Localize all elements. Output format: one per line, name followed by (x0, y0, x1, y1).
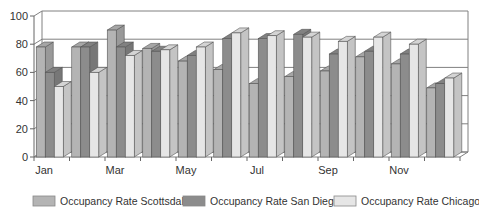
bar (445, 73, 462, 157)
legend-item: Occupancy Rate San Diego (183, 195, 340, 207)
bars (36, 25, 462, 157)
x-tick-label: May (176, 164, 197, 176)
bar (232, 28, 249, 157)
legend-swatch (334, 196, 356, 206)
bar (90, 67, 107, 157)
bar (54, 82, 71, 158)
y-axis: 020406080100 (10, 10, 34, 163)
y-tick-label: 60 (16, 66, 28, 78)
legend-label: Occupancy Rate Chicago (361, 195, 479, 207)
bar (196, 42, 213, 157)
y-tick-label: 0 (22, 151, 28, 163)
legend-label: Occupancy Rate San Diego (210, 195, 340, 207)
bar (267, 31, 284, 157)
occupancy-chart: 020406080100JanMarMayJulSepNovOccupancy … (0, 0, 479, 219)
x-tick-label: Jan (35, 164, 53, 176)
legend-item: Occupancy Rate Chicago (334, 195, 479, 207)
bar (161, 45, 178, 157)
legend-swatch (183, 196, 205, 206)
y-tick-label: 100 (10, 10, 28, 22)
x-axis: JanMarMayJulSepNov (34, 157, 460, 176)
x-tick-label: Mar (106, 164, 125, 176)
legend-label: Occupancy Rate Scottsdale (60, 195, 190, 207)
bar (409, 39, 426, 157)
y-tick-label: 20 (16, 123, 28, 135)
x-tick-label: Nov (389, 164, 409, 176)
x-tick-label: Sep (318, 164, 338, 176)
bar (303, 32, 320, 157)
legend-swatch (33, 196, 55, 206)
x-tick-label: Jul (250, 164, 264, 176)
bar (125, 50, 142, 157)
bar (374, 32, 391, 157)
y-tick-label: 40 (16, 95, 28, 107)
legend-item: Occupancy Rate Scottsdale (33, 195, 190, 207)
legend: Occupancy Rate ScottsdaleOccupancy Rate … (33, 195, 479, 207)
y-tick-label: 80 (16, 38, 28, 50)
chart-canvas: 020406080100JanMarMayJulSepNovOccupancy … (0, 0, 479, 219)
bar (338, 36, 355, 157)
